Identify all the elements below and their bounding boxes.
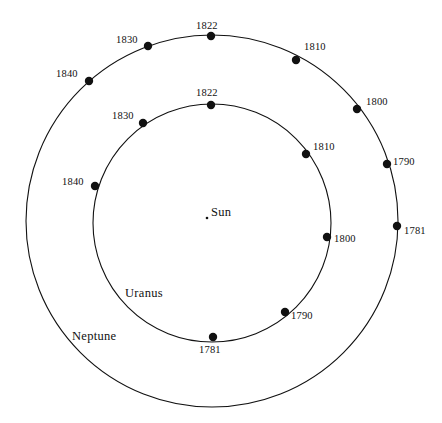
epoch-year-label: 1790: [291, 311, 313, 322]
epoch-marker: [281, 308, 289, 316]
epoch-marker: [85, 77, 93, 85]
sun-marker: [206, 217, 209, 220]
epoch-year-label: 1781: [199, 345, 221, 356]
epoch-marker: [292, 56, 300, 64]
epoch-year-label: 1810: [313, 142, 335, 153]
neptune-label: Neptune: [72, 330, 116, 343]
epoch-year-label: 1800: [366, 97, 388, 108]
epoch-year-label: 1830: [116, 35, 138, 46]
epoch-marker: [353, 105, 361, 113]
epoch-year-label: 1781: [404, 226, 426, 237]
epoch-year-label: 1810: [304, 42, 326, 53]
orbit-diagram: Sun Uranus Neptune 182218301840181018001…: [0, 0, 442, 423]
epoch-year-label: 1800: [334, 234, 356, 245]
epoch-marker: [393, 222, 401, 230]
epoch-year-label: 1840: [62, 177, 84, 188]
epoch-marker: [302, 150, 310, 158]
epoch-marker: [323, 233, 331, 241]
epoch-year-label: 1822: [196, 21, 218, 32]
epoch-marker: [207, 101, 215, 109]
uranus-orbit-circle: [93, 104, 331, 342]
uranus-label: Uranus: [125, 287, 163, 300]
epoch-year-label: 1822: [196, 88, 218, 99]
epoch-marker: [207, 32, 215, 40]
epoch-marker: [383, 160, 391, 168]
epoch-year-label: 1790: [393, 157, 415, 168]
epoch-marker: [91, 182, 99, 190]
epoch-year-label: 1830: [112, 111, 134, 122]
epoch-marker: [139, 119, 147, 127]
sun-label: Sun: [211, 206, 231, 219]
epoch-marker: [144, 42, 152, 50]
epoch-marker: [209, 333, 217, 341]
epoch-year-label: 1840: [56, 69, 78, 80]
